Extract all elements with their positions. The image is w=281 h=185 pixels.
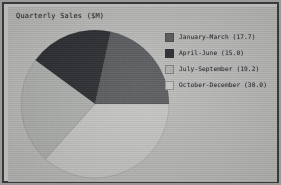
- legend-item[interactable]: October-December (30.0): [165, 77, 277, 93]
- legend-item[interactable]: April-June (15.0): [165, 45, 277, 61]
- legend-item[interactable]: July-September (19.2): [165, 61, 277, 77]
- legend-item[interactable]: January-March (17.7): [165, 29, 277, 45]
- window-frame: Quarterly Sales ($M) January-March (17.7…: [2, 2, 279, 183]
- legend-color-swatch: [165, 33, 174, 42]
- legend-item-label: July-September (19.2): [179, 65, 259, 73]
- legend-color-swatch: [165, 81, 174, 90]
- pie-slice-group: [21, 30, 169, 178]
- chart-title: Quarterly Sales ($M): [16, 12, 104, 21]
- legend-item-label: April-June (15.0): [179, 49, 244, 57]
- legend-color-swatch: [165, 65, 174, 74]
- legend-item-label: January-March (17.7): [179, 33, 256, 41]
- screenshot-root: Quarterly Sales ($M) January-March (17.7…: [0, 0, 281, 185]
- chart-figure: Quarterly Sales ($M) January-March (17.7…: [8, 7, 277, 182]
- chart-legend: January-March (17.7)April-June (15.0)Jul…: [165, 29, 277, 93]
- pie-svg: [19, 28, 171, 180]
- legend-item-label: October-December (30.0): [179, 81, 267, 89]
- legend-color-swatch: [165, 49, 174, 58]
- pie-chart: [19, 28, 171, 180]
